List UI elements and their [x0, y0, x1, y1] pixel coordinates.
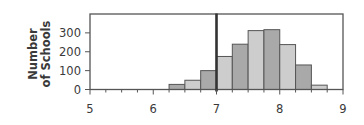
histogram-bar: [248, 31, 264, 90]
histogram-bar: [232, 44, 248, 89]
histogram-bar: [185, 80, 201, 89]
y-axis-label-line-1: Number: [26, 28, 40, 80]
histogram-bar: [201, 71, 217, 90]
histogram-bars: [169, 30, 327, 90]
y-tick-label: 200: [59, 45, 81, 59]
y-tick-label: 0: [74, 83, 81, 97]
x-tick-label: 7: [213, 102, 220, 116]
histogram-bar: [296, 65, 312, 90]
x-tick-label: 6: [150, 102, 157, 116]
y-axis-label-line-2: of Schools: [39, 20, 53, 87]
histogram-bar: [264, 30, 280, 90]
y-axis: 0100200300: [59, 26, 90, 97]
histogram-bar: [217, 56, 233, 89]
y-tick-label: 100: [59, 64, 81, 78]
x-tick-label: 9: [339, 102, 346, 116]
y-axis-label: Number of Schools: [26, 20, 53, 87]
histogram-chart: Number of Schools 56789 0100200300: [0, 0, 364, 125]
x-axis: 56789: [86, 90, 346, 117]
x-tick-label: 8: [276, 102, 283, 116]
histogram-bar: [311, 85, 327, 89]
x-tick-label: 5: [86, 102, 93, 116]
y-tick-label: 300: [59, 26, 81, 40]
histogram-bar: [280, 45, 296, 90]
histogram-bar: [169, 84, 185, 89]
